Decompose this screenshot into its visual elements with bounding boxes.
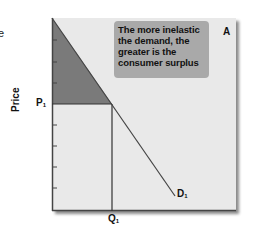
- quantity-label-main: Q: [108, 213, 116, 224]
- quantity-level-label: Q1: [108, 213, 119, 224]
- annotation-line: The more inelastic: [118, 24, 205, 35]
- quantity-label-sub: 1: [116, 218, 119, 224]
- annotation-line: consumer surplus: [118, 57, 205, 68]
- annotation-line: greater is the: [118, 46, 205, 57]
- annotation-box: The more inelastic the demand, the great…: [114, 21, 209, 78]
- demand-label-sub: 1: [184, 193, 187, 199]
- price-label-sub: 1: [43, 102, 46, 108]
- price-level-label: P1: [36, 97, 46, 108]
- annotation-line: the demand, the: [118, 35, 205, 46]
- panel-label: A: [223, 26, 230, 37]
- price-label-main: P: [36, 97, 43, 108]
- demand-curve-label: D1: [177, 188, 188, 199]
